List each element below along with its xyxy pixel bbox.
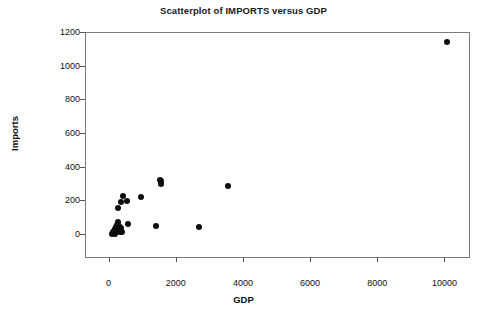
x-tick-label: 10000 <box>414 278 474 288</box>
x-tick-mark <box>444 257 445 262</box>
data-point <box>115 205 121 211</box>
y-axis-label: Imports <box>9 89 20 179</box>
data-point <box>444 39 450 45</box>
x-tick-label: 0 <box>79 278 139 288</box>
x-tick-label: 8000 <box>347 278 407 288</box>
x-tick-label: 2000 <box>146 278 206 288</box>
y-tick-label: 600 <box>34 128 80 138</box>
plot-area <box>85 32 470 258</box>
x-tick-label: 4000 <box>213 278 273 288</box>
data-point <box>153 223 159 229</box>
data-point <box>196 224 202 230</box>
x-tick-label: 6000 <box>280 278 340 288</box>
x-tick-mark <box>109 257 110 262</box>
y-tick-label: 200 <box>34 195 80 205</box>
x-tick-mark <box>310 257 311 262</box>
data-point <box>125 221 131 227</box>
y-tick-label: 0 <box>34 229 80 239</box>
data-point <box>158 181 164 187</box>
y-tick-label: 1000 <box>34 61 80 71</box>
data-point <box>124 198 130 204</box>
data-point <box>119 229 125 235</box>
x-tick-mark <box>176 257 177 262</box>
y-tick-label: 1200 <box>34 27 80 37</box>
x-tick-mark <box>243 257 244 262</box>
y-tick-label: 400 <box>34 162 80 172</box>
scatterplot-figure: Scatterplot of IMPORTS versus GDP Import… <box>0 0 487 321</box>
y-axis-tick-labels: 020040060080010001200 <box>28 0 80 321</box>
data-point <box>225 183 231 189</box>
y-tick-label: 800 <box>34 94 80 104</box>
x-tick-mark <box>377 257 378 262</box>
data-point <box>138 194 144 200</box>
